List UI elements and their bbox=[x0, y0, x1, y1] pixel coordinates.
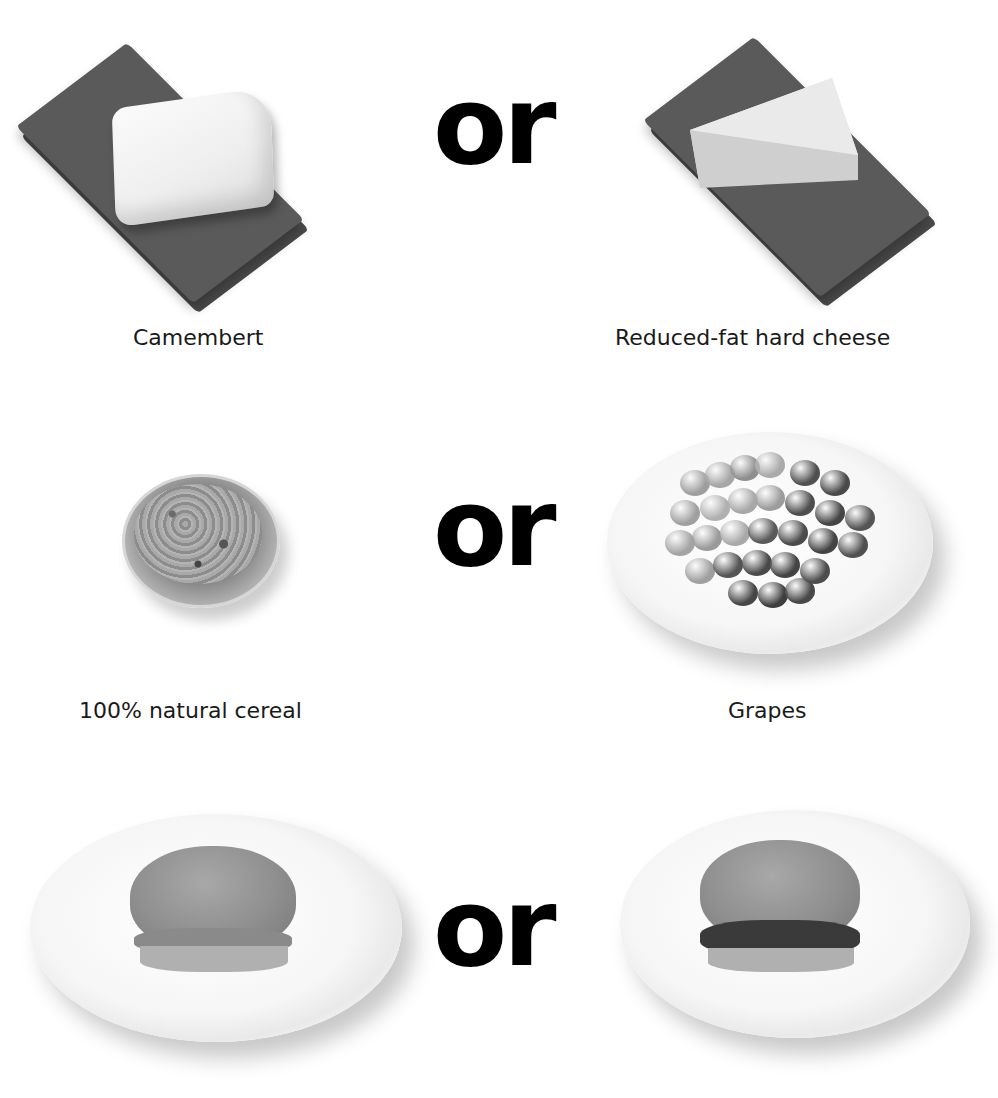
caption-camembert: Camembert bbox=[133, 325, 263, 350]
grape bbox=[728, 580, 758, 606]
grape bbox=[720, 520, 750, 546]
or-separator-3: or bbox=[433, 874, 552, 982]
grape bbox=[778, 520, 808, 546]
grape bbox=[755, 485, 785, 511]
camembert-cheese bbox=[112, 87, 275, 228]
grape bbox=[820, 470, 850, 496]
grape bbox=[692, 525, 722, 551]
grape bbox=[685, 558, 715, 584]
grape bbox=[845, 505, 875, 531]
grape bbox=[742, 550, 772, 576]
grape bbox=[790, 460, 820, 486]
grape bbox=[728, 488, 758, 514]
grape bbox=[713, 552, 743, 578]
grape bbox=[758, 582, 788, 608]
grape bbox=[665, 530, 695, 556]
grape bbox=[748, 518, 778, 544]
grape bbox=[808, 528, 838, 554]
grape bbox=[770, 552, 800, 578]
grape bbox=[755, 452, 785, 478]
grape bbox=[838, 532, 868, 558]
grape bbox=[815, 500, 845, 526]
grape bbox=[785, 490, 815, 516]
hard-cheese-wedge bbox=[680, 70, 870, 200]
grape bbox=[670, 500, 700, 526]
or-separator-1: or bbox=[433, 72, 552, 180]
bottom-bun bbox=[140, 946, 288, 972]
caption-reduced-fat-hard-cheese: Reduced-fat hard cheese bbox=[615, 325, 890, 350]
or-separator-2: or bbox=[433, 474, 552, 582]
caption-natural-cereal: 100% natural cereal bbox=[79, 698, 302, 723]
grape bbox=[700, 495, 730, 521]
grape bbox=[785, 578, 815, 604]
caption-grapes: Grapes bbox=[728, 698, 807, 723]
cereal bbox=[134, 484, 262, 584]
bottom-bun bbox=[708, 948, 854, 972]
